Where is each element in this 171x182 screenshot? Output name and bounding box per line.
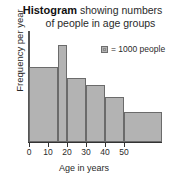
histogram-bar [29,67,58,142]
histogram-figure: Histogram showing numbers of people in a… [0,0,171,182]
histogram-bar [58,45,68,142]
x-axis-tick-label: 40 [100,147,109,157]
histogram-bar [67,78,86,142]
histogram-bar [86,85,105,142]
chart-title-emphasis: Histogram [23,4,77,16]
chart-title: Histogram showing numbers of people in a… [0,4,171,30]
chart-title-line-1: Histogram showing numbers [0,4,171,17]
histogram-bar [124,112,162,142]
x-axis-tick-labels: 01020304050 [28,147,168,159]
x-axis-tick-label: 50 [119,147,128,157]
x-axis-tick-label: 0 [27,147,32,157]
x-axis-label: Age in years [24,163,144,173]
bar-series [29,31,162,142]
plot-area [28,31,162,143]
x-axis-tick-label: 10 [43,147,52,157]
histogram-bar [105,97,124,142]
chart-title-rest: showing numbers [77,4,162,16]
x-axis-tick-label: 30 [81,147,90,157]
chart-title-line-2: of people in age groups [0,17,171,30]
x-axis-tick-label: 20 [62,147,71,157]
y-axis-label: Frequency per year [14,0,25,111]
